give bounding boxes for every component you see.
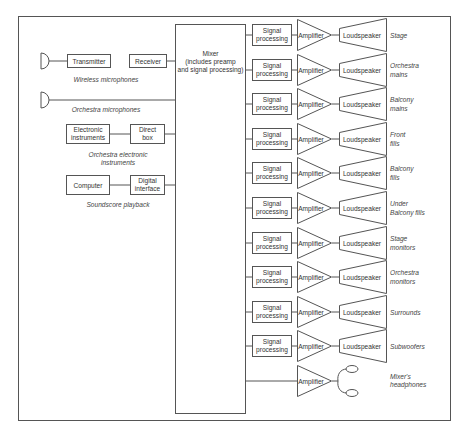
amplifier-label: Amplifier (298, 274, 324, 282)
output-name-line-2: mains (390, 105, 408, 112)
signal-processing-label-1: Signal (263, 200, 282, 208)
signal-processing-label-2: processing (256, 312, 288, 320)
loudspeaker-label: Loudspeaker (343, 67, 382, 75)
mixer-label-3: and signal processing) (178, 66, 244, 74)
amplifier-label: Amplifier (298, 101, 324, 109)
loudspeaker-label: Loudspeaker (343, 343, 382, 351)
direct-box-label-1: Direct (139, 126, 156, 133)
direct-box-label-2: box (142, 134, 153, 141)
transmitter-label: Transmitter (72, 58, 106, 65)
output-name-line-2: fills (390, 174, 400, 181)
headphones-label-2: headphones (390, 381, 427, 389)
loudspeaker-label: Loudspeaker (343, 309, 382, 317)
signal-processing-label-1: Signal (263, 269, 282, 277)
signal-processing-label-1: Signal (263, 165, 282, 173)
amplifier-label: Amplifier (298, 170, 324, 178)
headphone-amplifier-label: Amplifier (298, 378, 324, 386)
output-name-line-2: mains (390, 71, 408, 78)
signal-processing-label-2: processing (256, 104, 288, 112)
output-name-line-2: Balcony fills (390, 209, 426, 217)
amplifier-label: Amplifier (298, 205, 324, 213)
computer-label: Computer (74, 182, 104, 190)
signal-processing-label-2: processing (256, 243, 288, 251)
amplifier-label: Amplifier (298, 240, 324, 248)
output-name-line-1: Under (390, 200, 409, 207)
output-name-line-1: Balcony (390, 165, 414, 173)
loudspeaker-label: Loudspeaker (343, 205, 382, 213)
output-name-line-1: Balcony (390, 96, 414, 104)
amplifier-label: Amplifier (298, 67, 324, 75)
mixer-box (176, 25, 246, 414)
output-name-line-2: monitors (390, 244, 416, 251)
amplifier-label: Amplifier (298, 32, 324, 40)
signal-processing-label-2: processing (256, 139, 288, 147)
signal-flow-diagram: Mixer (includes preamp and signal proces… (0, 0, 465, 441)
headphones-label-1: Mixer's (390, 373, 411, 380)
signal-processing-label-1: Signal (263, 338, 282, 346)
output-name-line-1: Stage (390, 235, 408, 243)
loudspeaker-label: Loudspeaker (343, 32, 382, 40)
loudspeaker-label: Loudspeaker (343, 170, 382, 178)
amplifier-label: Amplifier (298, 343, 324, 351)
electronic-caption-2: instruments (101, 159, 136, 166)
mixer-label-2: (includes preamp (185, 58, 236, 66)
electronic-label-2: instruments (71, 134, 106, 141)
signal-processing-label-1: Signal (263, 304, 282, 312)
output-name: Stage (390, 32, 408, 40)
signal-processing-label-1: Signal (263, 62, 282, 70)
loudspeaker-label: Loudspeaker (343, 240, 382, 248)
orchestra-mics-caption: Orchestra microphones (72, 106, 141, 114)
output-name-line-1: Orchestra (390, 269, 419, 276)
signal-processing-label-2: processing (256, 208, 288, 216)
signal-processing-label-2: processing (256, 173, 288, 181)
signal-processing-label-1: Signal (263, 27, 282, 35)
amplifier-label: Amplifier (298, 309, 324, 317)
output-name-line-2: fills (390, 140, 400, 147)
digital-interface-label-1: Digital (138, 177, 157, 185)
mixer-label-1: Mixer (202, 50, 219, 57)
wireless-caption: Wireless microphones (74, 76, 140, 84)
signal-processing-label-2: processing (256, 346, 288, 354)
receiver-label: Receiver (135, 58, 162, 65)
signal-processing-label-1: Signal (263, 96, 282, 104)
signal-processing-label-2: processing (256, 35, 288, 43)
loudspeaker-label: Loudspeaker (343, 136, 382, 144)
amplifier-label: Amplifier (298, 136, 324, 144)
loudspeaker-label: Loudspeaker (343, 274, 382, 282)
output-name-line-2: monitors (390, 278, 416, 285)
output-name: Surrounds (390, 309, 421, 316)
signal-processing-label-1: Signal (263, 235, 282, 243)
signal-processing-label-2: processing (256, 70, 288, 78)
output-name: Subwoofers (390, 343, 426, 350)
signal-processing-label-1: Signal (263, 131, 282, 139)
soundscore-caption: Soundscore playback (86, 201, 150, 209)
output-name-line-1: Orchestra (390, 62, 419, 69)
electronic-label-1: Electronic (74, 126, 104, 133)
electronic-caption-1: Orchestra electronic (89, 151, 149, 158)
digital-interface-label-2: interface (135, 185, 161, 192)
loudspeaker-label: Loudspeaker (343, 101, 382, 109)
signal-processing-label-2: processing (256, 277, 288, 285)
output-name-line-1: Front (390, 131, 407, 138)
